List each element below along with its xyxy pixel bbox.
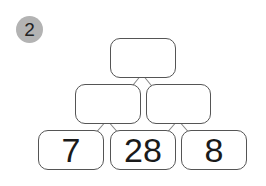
bottom-box-2: 28 [110,130,176,170]
bottom-box-1: 7 [38,130,104,170]
bottom-box-3: 8 [181,130,247,170]
middle-left-box[interactable] [75,84,141,124]
top-box[interactable] [110,38,176,78]
middle-right-box[interactable] [146,84,211,124]
